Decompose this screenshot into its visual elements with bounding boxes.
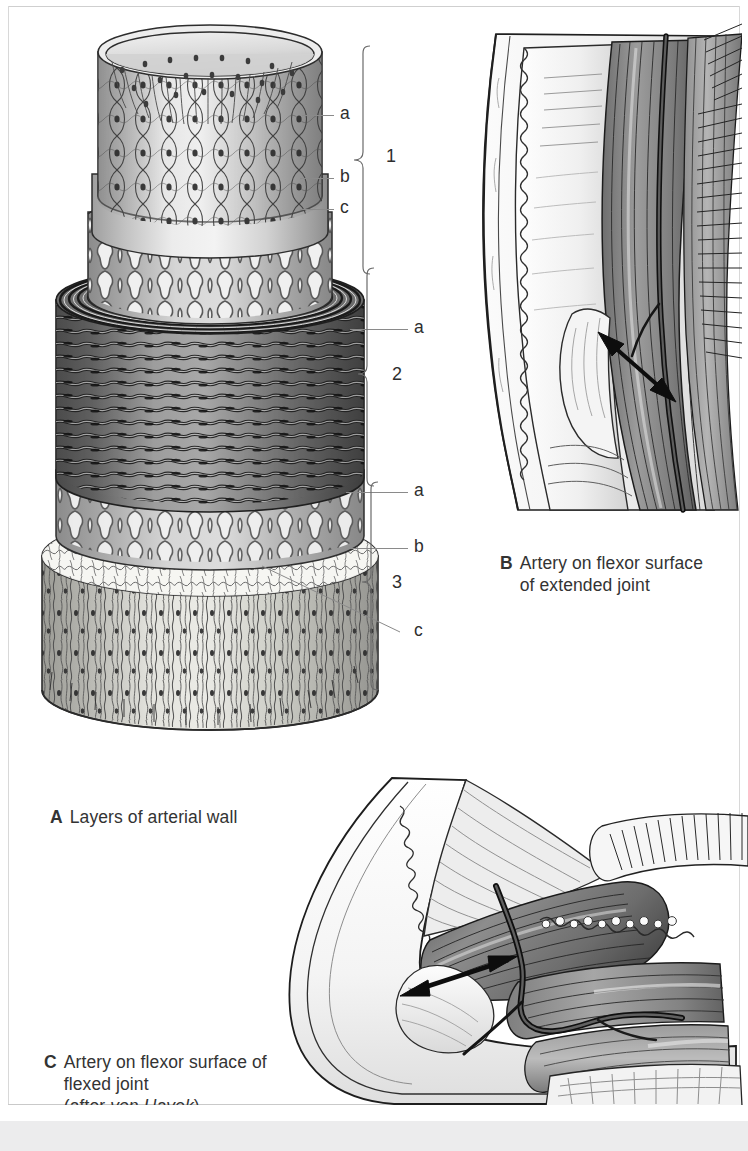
panel-b-caption-line1: Artery on flexor surface bbox=[520, 553, 703, 573]
tunica-intima-drum bbox=[88, 25, 332, 328]
leader-line-1b bbox=[300, 178, 334, 179]
leader-line-1c bbox=[300, 209, 334, 210]
panel-c-caption: CArtery on flexor surface offlexed joint… bbox=[44, 1029, 384, 1117]
extended-joint-illustration bbox=[452, 18, 742, 516]
panel-a-caption-text: Layers of arterial wall bbox=[70, 806, 238, 828]
label-2a: a bbox=[414, 318, 424, 336]
panel-c-caption-line1: Artery on flexor surface of bbox=[64, 1052, 267, 1072]
bracket-layer-1 bbox=[350, 44, 376, 276]
bracket-number-3: 3 bbox=[392, 572, 402, 593]
footer-gap bbox=[0, 1105, 748, 1121]
plate-page: a b c a a b c 1 2 3 ALayers bbox=[0, 0, 748, 1151]
panel-b-figure bbox=[452, 18, 742, 516]
footer-band bbox=[0, 1121, 748, 1151]
bracket-layer-2 bbox=[354, 266, 380, 488]
bracket-number-1: 1 bbox=[386, 146, 396, 167]
panel-c-caption-line2: flexed joint bbox=[64, 1074, 149, 1094]
panel-c-letter: C bbox=[44, 1052, 57, 1072]
panel-b-caption: BArtery on flexor surfaceof extended joi… bbox=[500, 530, 748, 596]
label-1a: a bbox=[340, 104, 350, 122]
bracket-layer-3 bbox=[358, 480, 384, 692]
panel-b-letter: B bbox=[500, 553, 513, 573]
label-3a: a bbox=[414, 481, 424, 499]
leader-line-1a bbox=[302, 115, 334, 116]
label-1c: c bbox=[340, 198, 349, 216]
panel-b-caption-text: Artery on flexor surfaceof extended join… bbox=[520, 552, 703, 596]
bracket-number-2: 2 bbox=[392, 364, 402, 385]
panel-b-caption-line2: of extended joint bbox=[520, 575, 650, 595]
label-3b: b bbox=[414, 537, 424, 555]
panel-a-letter: A bbox=[50, 807, 63, 827]
label-3c: c bbox=[414, 621, 423, 639]
label-1b: b bbox=[340, 167, 350, 185]
